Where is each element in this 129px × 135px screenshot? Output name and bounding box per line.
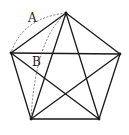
label-a: A	[28, 12, 37, 24]
label-b: B	[32, 56, 41, 68]
pentagon-figure	[0, 0, 129, 135]
pentagon-diagram: A B	[0, 0, 129, 135]
